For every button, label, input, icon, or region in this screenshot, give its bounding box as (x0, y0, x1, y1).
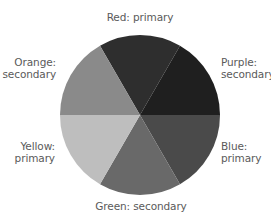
label-yellow-line2: primary (15, 152, 55, 164)
label-purple: Purple: secondary (221, 56, 271, 80)
label-orange: Orange: secondary (2, 56, 56, 80)
label-yellow-line1: Yellow: (15, 140, 55, 152)
label-blue-line1: Blue: (221, 140, 261, 152)
pie-chart: Red: primary Orange: secondary Purple: s… (0, 0, 271, 221)
label-green: Green: secondary (95, 200, 187, 212)
label-blue-line2: primary (221, 152, 261, 164)
label-red: Red: primary (107, 11, 174, 23)
label-purple-line2: secondary (221, 68, 271, 80)
label-blue: Blue: primary (221, 140, 261, 164)
label-red-text: Red: primary (107, 11, 174, 23)
label-yellow: Yellow: primary (15, 140, 55, 164)
label-orange-line2: secondary (2, 68, 56, 80)
pie-chart-svg (0, 0, 271, 221)
label-orange-line1: Orange: (2, 56, 56, 68)
label-green-text: Green: secondary (95, 200, 187, 212)
label-purple-line1: Purple: (221, 56, 271, 68)
